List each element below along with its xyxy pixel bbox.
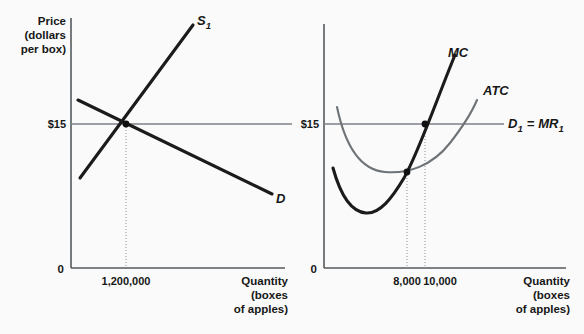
atc-curve	[337, 100, 477, 172]
demand-mr-label-mr-subscript: 1	[559, 123, 564, 134]
right-x-tick-8000: 8,000	[393, 275, 421, 287]
demand-mr-label-mr: MR	[538, 116, 559, 131]
left-y-axis-label-line1: Price	[38, 15, 66, 27]
mc-curve-label: MC	[448, 45, 469, 60]
right-origin-label: 0	[311, 263, 317, 275]
left-x-axis-label-line2: (boxes	[251, 289, 288, 301]
demand-mr-label-equals: =	[527, 116, 535, 131]
mc-curve	[333, 55, 455, 213]
left-y-axis-label-line2: (dollars	[24, 29, 66, 41]
supply-curve-label: S1	[197, 13, 211, 31]
figure-container: Price (dollars per box) $15 0 1,200,000 …	[0, 0, 584, 334]
left-x-axis-label-line1: Quantity	[241, 275, 288, 287]
mc-atc-intersection-point	[404, 169, 411, 176]
right-panel: $15 0 8,000 10,000 Quantity (boxes of ap…	[301, 24, 571, 315]
left-x-tick-quantity: 1,200,000	[102, 275, 151, 287]
demand-mr-label-d-subscript: 1	[517, 123, 522, 134]
left-x-axis-label-line3: of apples)	[234, 303, 288, 315]
demand-mr-label: D1=MR1	[508, 116, 564, 134]
right-x-tick-10000: 10,000	[423, 275, 457, 287]
right-x-axis-label-line3: of apples)	[516, 303, 570, 315]
supply-curve-label-subscript: 1	[206, 20, 211, 31]
supply-curve-label-text: S	[197, 13, 206, 28]
left-y-axis-label-line3: per box)	[21, 43, 67, 55]
left-y-tick-15: $15	[48, 118, 66, 130]
left-origin-label: 0	[58, 263, 64, 275]
profit-max-point	[422, 121, 429, 128]
demand-curve-label: D	[276, 191, 286, 206]
left-panel: Price (dollars per box) $15 0 1,200,000 …	[21, 13, 292, 315]
right-x-axis-label-line1: Quantity	[523, 275, 570, 287]
demand-curve	[78, 100, 272, 194]
left-equilibrium-point	[123, 121, 130, 128]
atc-curve-label: ATC	[482, 83, 509, 98]
economics-diagram: Price (dollars per box) $15 0 1,200,000 …	[0, 0, 584, 334]
right-x-axis-label-line2: (boxes	[533, 289, 570, 301]
supply-curve	[80, 25, 193, 178]
right-y-tick-15: $15	[301, 118, 319, 130]
